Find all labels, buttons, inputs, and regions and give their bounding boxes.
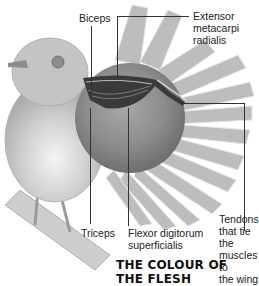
- bird-head: [12, 38, 88, 106]
- leader-line-tendons-h: [182, 103, 245, 104]
- label-flexor-line1: Flexor digitorum: [128, 227, 203, 239]
- label-extensor-line1: Extensor: [193, 10, 239, 22]
- label-flexor-digitorum-superficialis: Flexor digitorum superficialis: [128, 227, 203, 251]
- leader-line-extensor-h: [117, 16, 189, 17]
- label-tendons-line1: Tendons: [219, 213, 259, 225]
- diagram-title: THE COLOUR OF THE FLESH: [116, 258, 258, 286]
- leader-line-tendons-v: [244, 103, 245, 231]
- leader-line-triceps: [90, 108, 91, 224]
- label-extensor-line2: metacarpi: [193, 22, 239, 34]
- label-flexor-line2: superficialis: [128, 239, 203, 251]
- label-triceps: Triceps: [81, 227, 115, 239]
- bird-eye: [52, 56, 64, 68]
- label-extensor-metacarpi-radialis: Extensor metacarpi radialis: [193, 10, 239, 46]
- label-biceps: Biceps: [79, 12, 111, 24]
- leader-line-extensor-v: [117, 16, 118, 76]
- leader-line-biceps: [91, 26, 92, 100]
- label-extensor-line3: radialis: [193, 34, 239, 46]
- leader-line-flexor: [128, 108, 129, 226]
- label-tendons-line2: that tie the: [219, 225, 259, 249]
